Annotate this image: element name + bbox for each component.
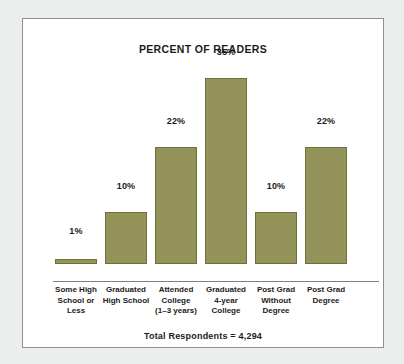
bar-4[interactable] bbox=[255, 212, 297, 264]
bar-group-3[interactable]: 35% bbox=[205, 59, 247, 264]
plot-area: 1% 10% 22% 35% 10% 22% bbox=[33, 59, 375, 264]
x-axis-label-4-line-2: Degree bbox=[243, 306, 309, 317]
bar-value-label-0: 1% bbox=[43, 226, 109, 236]
bar-group-1[interactable]: 10% bbox=[105, 59, 147, 264]
x-axis-label-0-line-2: Less bbox=[43, 306, 109, 317]
bar-3[interactable] bbox=[205, 78, 247, 264]
x-axis-label-5: Post Grad Degree bbox=[293, 285, 359, 306]
total-respondents-note: Total Respondents = 4,294 bbox=[23, 331, 383, 341]
bar-5[interactable] bbox=[305, 147, 347, 264]
x-axis-label-5-line-1: Degree bbox=[293, 296, 359, 307]
bar-0[interactable] bbox=[55, 259, 97, 265]
bar-1[interactable] bbox=[105, 212, 147, 264]
bar-group-4[interactable]: 10% bbox=[255, 59, 297, 264]
bar-value-label-3: 35% bbox=[193, 47, 259, 57]
x-axis-label-5-line-0: Post Grad bbox=[293, 285, 359, 296]
bar-2[interactable] bbox=[155, 147, 197, 264]
bar-group-0[interactable]: 1% bbox=[55, 59, 97, 264]
bar-value-label-1: 10% bbox=[93, 181, 159, 191]
x-axis-labels: Some High School or Less Graduated High … bbox=[33, 285, 375, 329]
bar-value-label-2: 22% bbox=[143, 116, 209, 126]
bar-value-label-4: 10% bbox=[243, 181, 309, 191]
chart-frame: PERCENT OF READERS 1% 10% 22% 35% 10% 22… bbox=[22, 18, 384, 348]
bar-value-label-5: 22% bbox=[293, 116, 359, 126]
bar-group-5[interactable]: 22% bbox=[305, 59, 347, 264]
bar-group-2[interactable]: 22% bbox=[155, 59, 197, 264]
x-axis-baseline bbox=[53, 281, 379, 282]
